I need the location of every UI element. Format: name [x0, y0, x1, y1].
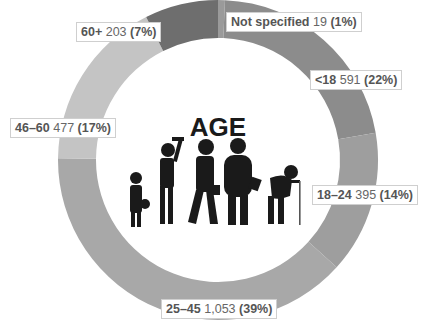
label-not-specified: Not specified 19 (1%) — [226, 12, 362, 32]
label-46-60: 46–60 477 (17%) — [10, 118, 116, 138]
label-under-18: <18 591 (22%) — [310, 70, 402, 90]
label-18-24: 18–24 395 (14%) — [312, 185, 418, 205]
donut-ring — [58, 0, 378, 320]
age-silhouettes-icon — [130, 137, 301, 227]
label-60-plus: 60+ 203 (7%) — [76, 22, 161, 42]
label-25-45: 25–45 1,053 (39%) — [161, 299, 277, 319]
donut-chart — [0, 0, 436, 332]
